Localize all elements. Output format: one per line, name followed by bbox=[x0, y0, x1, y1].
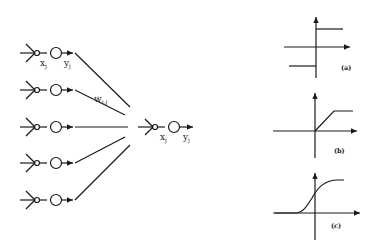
caption-b: (b) bbox=[334, 147, 345, 155]
input-unit-5 bbox=[20, 191, 73, 209]
weight-label: wi,j bbox=[94, 94, 108, 106]
target-output-label: yj bbox=[182, 132, 190, 144]
activation-graph-sigmoid: (c) bbox=[273, 173, 360, 240]
caption-c: (c) bbox=[331, 222, 341, 230]
target-unit: xj yj bbox=[138, 119, 193, 144]
input-label: xj bbox=[40, 58, 47, 70]
activation-graph-step: (a) bbox=[284, 17, 351, 78]
input-unit-2 bbox=[20, 81, 73, 99]
input-unit-3 bbox=[20, 118, 73, 136]
neural-network-diagram: xj yj bbox=[0, 0, 378, 248]
weighted-connections bbox=[75, 53, 130, 200]
activation-graph-linear-threshold: (b) bbox=[273, 93, 357, 158]
input-unit-4 bbox=[20, 154, 73, 172]
target-input-label: xj bbox=[160, 132, 167, 144]
neuron-circle bbox=[51, 48, 62, 59]
caption-a: (a) bbox=[341, 64, 351, 72]
output-label: yj bbox=[63, 58, 71, 70]
input-unit-1: xj yj bbox=[20, 44, 73, 70]
